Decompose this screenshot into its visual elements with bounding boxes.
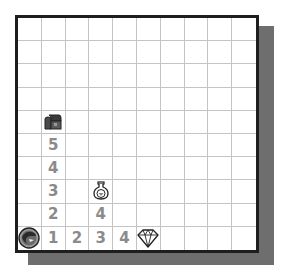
- board-cell[interactable]: [66, 157, 90, 180]
- board-cell[interactable]: [161, 41, 185, 64]
- board-cell[interactable]: [208, 18, 232, 41]
- board-cell[interactable]: [137, 111, 161, 134]
- board-cell[interactable]: [18, 41, 42, 64]
- board-cell[interactable]: [18, 204, 42, 227]
- board-cell[interactable]: 4: [89, 204, 113, 227]
- board-cell[interactable]: [208, 227, 232, 250]
- board-cell[interactable]: [113, 64, 137, 87]
- board-cell[interactable]: [89, 41, 113, 64]
- board-cell[interactable]: [66, 18, 90, 41]
- board-cell[interactable]: [208, 134, 232, 157]
- board-cell[interactable]: [208, 88, 232, 111]
- board-cell[interactable]: 3: [89, 227, 113, 250]
- board-cell[interactable]: 4: [42, 157, 66, 180]
- board-cell[interactable]: [66, 204, 90, 227]
- board-cell[interactable]: [137, 18, 161, 41]
- board-cell[interactable]: [185, 18, 209, 41]
- board-cell[interactable]: [208, 111, 232, 134]
- board-cell[interactable]: [185, 64, 209, 87]
- board-cell[interactable]: [232, 134, 256, 157]
- board-cell[interactable]: [208, 157, 232, 180]
- board-cell[interactable]: 2: [66, 227, 90, 250]
- board-cell[interactable]: [137, 88, 161, 111]
- board-cell[interactable]: [161, 180, 185, 203]
- board-cell[interactable]: [113, 134, 137, 157]
- board-cell[interactable]: [185, 157, 209, 180]
- board-cell[interactable]: [208, 64, 232, 87]
- board-cell[interactable]: [232, 64, 256, 87]
- board-cell[interactable]: [232, 180, 256, 203]
- board-cell[interactable]: [185, 227, 209, 250]
- board-cell[interactable]: [89, 18, 113, 41]
- board-cell[interactable]: [18, 180, 42, 203]
- board-cell[interactable]: [161, 134, 185, 157]
- board-cell[interactable]: [42, 18, 66, 41]
- board-cell[interactable]: [113, 41, 137, 64]
- board-cell[interactable]: [137, 134, 161, 157]
- board-cell[interactable]: [137, 180, 161, 203]
- board-cell[interactable]: [42, 111, 66, 134]
- board-cell[interactable]: [89, 180, 113, 203]
- board-cell[interactable]: [42, 41, 66, 64]
- board-cell[interactable]: [161, 227, 185, 250]
- board-cell[interactable]: [232, 204, 256, 227]
- board-cell[interactable]: [137, 64, 161, 87]
- board-cell[interactable]: [232, 157, 256, 180]
- board-cell[interactable]: [113, 180, 137, 203]
- board-cell[interactable]: [137, 41, 161, 64]
- board-cell[interactable]: [42, 64, 66, 87]
- board-cell[interactable]: [232, 18, 256, 41]
- board-cell[interactable]: [66, 180, 90, 203]
- board-cell[interactable]: [185, 41, 209, 64]
- board-cell[interactable]: [18, 88, 42, 111]
- board-cell[interactable]: [89, 157, 113, 180]
- board-cell[interactable]: 4: [113, 227, 137, 250]
- board-cell[interactable]: [113, 88, 137, 111]
- board-cell[interactable]: [208, 204, 232, 227]
- board-cell[interactable]: [113, 157, 137, 180]
- board-cell[interactable]: [137, 227, 161, 250]
- board-cell[interactable]: [18, 157, 42, 180]
- board-cell[interactable]: [18, 111, 42, 134]
- board-cell[interactable]: [185, 204, 209, 227]
- board-cell[interactable]: [18, 227, 42, 250]
- board-cell[interactable]: [42, 88, 66, 111]
- board-cell[interactable]: [89, 64, 113, 87]
- board-cell[interactable]: [89, 134, 113, 157]
- board-cell[interactable]: [185, 88, 209, 111]
- board-cell[interactable]: [137, 204, 161, 227]
- board-cell[interactable]: 2: [42, 204, 66, 227]
- board-cell[interactable]: 5: [42, 134, 66, 157]
- board-cell[interactable]: [113, 204, 137, 227]
- board-cell[interactable]: [18, 134, 42, 157]
- board-cell[interactable]: [66, 134, 90, 157]
- board-cell[interactable]: [208, 41, 232, 64]
- board-cell[interactable]: [185, 134, 209, 157]
- board-cell[interactable]: [161, 157, 185, 180]
- board-cell[interactable]: [66, 111, 90, 134]
- board-cell[interactable]: [66, 64, 90, 87]
- board-cell[interactable]: [89, 111, 113, 134]
- board-cell[interactable]: [66, 41, 90, 64]
- board-cell[interactable]: 1: [42, 227, 66, 250]
- board-cell[interactable]: [161, 88, 185, 111]
- board-cell[interactable]: [89, 88, 113, 111]
- board-cell[interactable]: [208, 180, 232, 203]
- board-cell[interactable]: [232, 41, 256, 64]
- board-cell[interactable]: [66, 88, 90, 111]
- board-cell[interactable]: [18, 64, 42, 87]
- board-cell[interactable]: [185, 180, 209, 203]
- board-cell[interactable]: [161, 111, 185, 134]
- board-cell[interactable]: [232, 227, 256, 250]
- board-cell[interactable]: [113, 18, 137, 41]
- board-cell[interactable]: [137, 157, 161, 180]
- board-cell[interactable]: [161, 18, 185, 41]
- board-cell[interactable]: [232, 111, 256, 134]
- board-cell[interactable]: [161, 64, 185, 87]
- board-cell[interactable]: [18, 18, 42, 41]
- board-cell[interactable]: [232, 88, 256, 111]
- board-cell[interactable]: [161, 204, 185, 227]
- board-cell[interactable]: [185, 111, 209, 134]
- board-cell[interactable]: [113, 111, 137, 134]
- board-cell[interactable]: 3: [42, 180, 66, 203]
